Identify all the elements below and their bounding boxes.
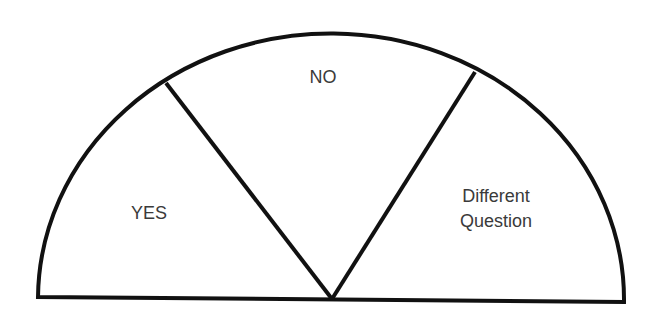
segment-label-no: NO	[292, 65, 354, 90]
segment-label-yes: YES	[118, 201, 180, 226]
diagram-canvas: YES NO Different Question	[0, 0, 660, 324]
semicircle-diagram	[0, 0, 660, 324]
segment-label-different-line2: Question	[438, 209, 554, 234]
segment-label-different-line1: Different	[438, 184, 554, 209]
segment-label-different-question: Different Question	[438, 184, 554, 234]
